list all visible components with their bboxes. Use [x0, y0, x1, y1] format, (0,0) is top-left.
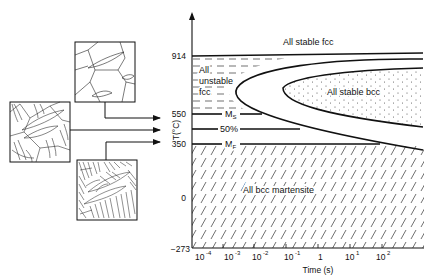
y-tick-550: 550	[172, 109, 186, 119]
y-tick-0: 0	[181, 193, 186, 203]
y-axis-label: T(°C)	[171, 120, 181, 141]
half-transformed-micrograph	[10, 102, 70, 162]
martensite-label: All bcc martensite	[243, 185, 314, 195]
y-tick-914: 914	[172, 51, 186, 61]
svg-text:-4: -4	[206, 250, 212, 256]
svg-text:2: 2	[387, 250, 391, 256]
micrograph-arrows	[70, 102, 160, 160]
svg-text:-1: -1	[295, 250, 301, 256]
svg-text:-3: -3	[235, 250, 241, 256]
svg-text:1: 1	[318, 252, 323, 262]
full-martensite-micrograph	[77, 160, 137, 220]
arrow-to-350-icon	[106, 142, 160, 160]
y-tick-minus273: −273	[171, 244, 190, 254]
svg-text:1: 1	[356, 250, 360, 256]
stable-fcc-label: All stable fcc	[283, 37, 334, 47]
a3-line-914	[192, 53, 423, 56]
y-axis-arrow-icon	[189, 12, 195, 20]
arrow-to-550-icon	[105, 102, 160, 118]
mf-label: MF	[225, 139, 237, 150]
unstable-fcc-micrograph	[75, 42, 135, 102]
x-axis-label: Time (s)	[303, 265, 334, 275]
svg-text:10: 10	[224, 252, 234, 262]
svg-text:-2: -2	[263, 250, 269, 256]
unstable-fcc-label-1: All	[199, 65, 209, 75]
svg-text:10: 10	[252, 252, 262, 262]
svg-text:10: 10	[345, 252, 355, 262]
x-tick-labels: 10 -4 10 -3 10 -2 10 -1 1 10 1 10 2	[195, 250, 391, 262]
fifty-percent-label: 50%	[220, 124, 238, 134]
svg-text:10: 10	[376, 252, 386, 262]
ttt-diagram: 914 550 350 0 −273 T(°C) 10 -4 10 -3 10 …	[0, 0, 433, 278]
martensite-region	[192, 146, 424, 248]
unstable-fcc-label-2: unstable	[199, 76, 233, 86]
svg-text:10: 10	[284, 252, 294, 262]
unstable-fcc-label-3: fcc	[199, 87, 211, 97]
stable-bcc-region	[283, 68, 423, 127]
stable-bcc-label: All stable bcc	[327, 87, 381, 97]
svg-text:10: 10	[195, 252, 205, 262]
